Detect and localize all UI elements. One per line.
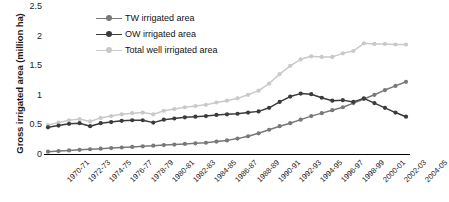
data-point <box>299 57 303 61</box>
x-tick-label: 1978-79 <box>149 158 175 184</box>
x-tick-label: 1980-81 <box>170 158 196 184</box>
y-tick-label: 1.5 <box>18 61 42 70</box>
data-point <box>235 137 239 141</box>
data-point <box>351 100 355 104</box>
data-point <box>109 120 113 124</box>
data-point <box>256 109 260 113</box>
data-point <box>299 118 303 122</box>
data-point <box>299 92 303 96</box>
data-point <box>288 121 292 125</box>
x-axis-tick-labels: 1970-711972-731974-751976-771978-791980-… <box>44 156 410 202</box>
y-tick-label: 2.5 <box>18 2 42 11</box>
data-point <box>372 101 376 105</box>
data-point <box>320 96 324 100</box>
data-point <box>77 121 81 125</box>
data-point <box>204 141 208 145</box>
x-tick-label: 2004-05 <box>423 158 449 184</box>
data-point <box>288 94 292 98</box>
data-point <box>88 119 92 123</box>
data-point <box>393 84 397 88</box>
data-point <box>109 114 113 118</box>
data-point <box>351 49 355 53</box>
data-point <box>330 108 334 112</box>
data-point <box>88 124 92 128</box>
data-point <box>99 116 103 120</box>
data-point <box>183 142 187 146</box>
x-tick-label: 1976-77 <box>128 158 154 184</box>
data-point <box>172 116 176 120</box>
x-tick-label: 1988-89 <box>255 158 281 184</box>
data-point <box>88 147 92 151</box>
data-point <box>309 92 313 96</box>
data-point <box>372 42 376 46</box>
data-point <box>77 148 81 152</box>
data-point <box>372 93 376 97</box>
data-point <box>141 144 145 148</box>
data-point <box>77 117 81 121</box>
data-point <box>130 118 134 122</box>
data-point <box>46 125 50 129</box>
data-point <box>99 121 103 125</box>
data-point <box>267 128 271 132</box>
data-point <box>151 121 155 125</box>
data-point <box>67 122 71 126</box>
data-point <box>162 143 166 147</box>
data-point <box>99 147 103 151</box>
legend-label: OW irrigated area <box>125 29 196 39</box>
data-point <box>162 109 166 113</box>
y-tick-label: 0.5 <box>18 120 42 129</box>
data-point <box>404 42 408 46</box>
x-tick-label: 2000-01 <box>381 158 407 184</box>
x-tick-label: 1972-73 <box>86 158 112 184</box>
data-point <box>141 110 145 114</box>
y-tick-label: 2 <box>18 31 42 40</box>
data-point <box>204 103 208 107</box>
data-point <box>383 88 387 92</box>
data-point <box>246 110 250 114</box>
legend-marker-icon <box>96 13 122 23</box>
data-point <box>235 96 239 100</box>
data-point <box>141 118 145 122</box>
data-point <box>193 115 197 119</box>
data-point <box>130 145 134 149</box>
data-point <box>235 112 239 116</box>
data-point <box>341 51 345 55</box>
x-axis-line <box>44 154 410 155</box>
x-tick-label: 1974-75 <box>107 158 133 184</box>
legend-label: TW irrigated area <box>125 13 195 23</box>
x-tick-label: 1996-97 <box>339 158 365 184</box>
data-point <box>404 115 408 119</box>
data-point <box>246 134 250 138</box>
data-point <box>330 99 334 103</box>
data-point <box>151 144 155 148</box>
data-point <box>109 146 113 150</box>
x-tick-label: 2002-03 <box>402 158 428 184</box>
legend-item-1: TW irrigated area <box>96 10 218 26</box>
data-point <box>404 80 408 84</box>
data-point <box>120 145 124 149</box>
data-point <box>393 110 397 114</box>
data-point <box>130 111 134 115</box>
data-point <box>246 93 250 97</box>
data-point <box>225 112 229 116</box>
data-point <box>225 138 229 142</box>
data-point <box>120 119 124 123</box>
data-point <box>151 112 155 116</box>
data-point <box>341 105 345 109</box>
data-point <box>393 42 397 46</box>
data-point <box>309 114 313 118</box>
data-point <box>214 100 218 104</box>
data-point <box>362 41 366 45</box>
data-point <box>330 55 334 59</box>
data-point <box>193 141 197 145</box>
data-point <box>183 105 187 109</box>
data-point <box>341 98 345 102</box>
data-point <box>383 106 387 110</box>
legend-item-3: Total well irrigated area <box>96 42 218 58</box>
data-point <box>320 111 324 115</box>
data-point <box>162 118 166 122</box>
data-point <box>56 149 60 153</box>
data-point <box>256 89 260 93</box>
data-point <box>204 114 208 118</box>
